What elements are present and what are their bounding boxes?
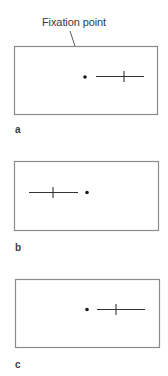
diagram-canvas bbox=[0, 0, 168, 376]
panel-label-c: c bbox=[15, 359, 21, 370]
fixation-point-dot bbox=[85, 308, 89, 312]
panel-label-a: a bbox=[15, 124, 21, 135]
panel-label-b: b bbox=[15, 242, 21, 253]
panel-b-frame bbox=[15, 162, 159, 231]
panel-c-frame bbox=[16, 280, 160, 348]
fixation-diagram: Fixation point a b c bbox=[0, 0, 168, 376]
panel-c bbox=[16, 280, 160, 348]
fixation-point-dot bbox=[83, 75, 87, 79]
panel-b bbox=[15, 162, 159, 231]
panel-a bbox=[15, 47, 158, 115]
fixation-point-label: Fixation point bbox=[42, 16, 106, 28]
fixation-point-dot bbox=[85, 191, 89, 195]
panel-a-frame bbox=[15, 47, 158, 115]
